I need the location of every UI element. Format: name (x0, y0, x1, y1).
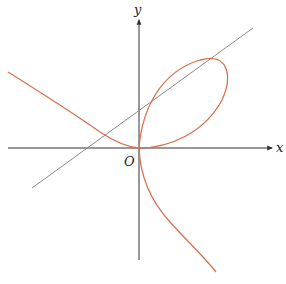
curve-branch-left (8, 72, 139, 148)
curve-branch-right (139, 148, 216, 272)
x-axis-label: x (276, 140, 284, 155)
origin-label: O (124, 154, 135, 169)
y-axis-label: y (133, 2, 142, 17)
curve-loop (139, 59, 227, 148)
diagram: y x O (0, 0, 286, 284)
